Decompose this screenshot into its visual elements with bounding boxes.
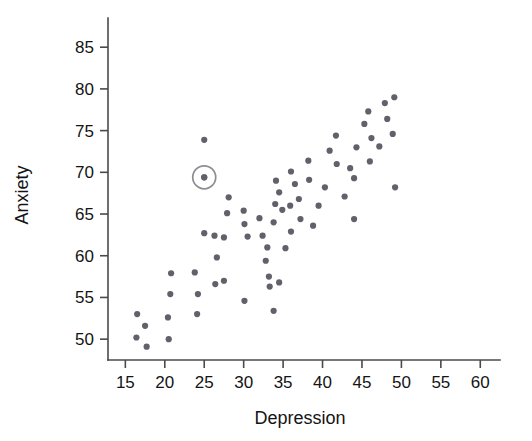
data-point — [282, 245, 288, 251]
data-point — [368, 135, 374, 141]
data-point — [266, 273, 272, 279]
x-tick-label: 25 — [195, 373, 214, 392]
data-point — [382, 100, 388, 106]
data-point — [327, 148, 333, 154]
data-point — [271, 219, 277, 225]
y-tick-label: 80 — [75, 80, 94, 99]
data-point — [241, 298, 247, 304]
data-point — [334, 161, 340, 167]
data-point — [333, 133, 339, 139]
data-point — [144, 344, 150, 350]
data-point — [212, 281, 218, 287]
data-point — [297, 216, 303, 222]
x-tick-label: 30 — [234, 373, 253, 392]
data-point — [221, 278, 227, 284]
x-tick-label: 45 — [353, 373, 372, 392]
highlight-layer — [193, 166, 216, 189]
data-point — [168, 270, 174, 276]
data-point — [241, 208, 247, 214]
data-point — [259, 233, 265, 239]
data-point — [391, 94, 397, 100]
y-axis-ticks: 5055606570758085 — [75, 38, 108, 349]
data-point — [306, 177, 312, 183]
data-point — [267, 283, 273, 289]
data-point — [224, 210, 230, 216]
data-point — [142, 323, 148, 329]
data-point — [315, 203, 321, 209]
data-point — [322, 184, 328, 190]
data-point — [288, 228, 294, 234]
data-point — [361, 121, 367, 127]
data-point — [305, 158, 311, 164]
data-point — [390, 131, 396, 137]
x-tick-label: 50 — [392, 373, 411, 392]
y-tick-label: 60 — [75, 247, 94, 266]
data-point — [271, 308, 277, 314]
highlighted-data-point — [201, 174, 207, 180]
data-point — [272, 201, 278, 207]
data-point — [310, 223, 316, 229]
y-tick-label: 55 — [75, 288, 94, 307]
data-point — [226, 194, 232, 200]
data-point — [166, 336, 172, 342]
data-point — [241, 221, 247, 227]
data-point — [165, 314, 171, 320]
data-point — [194, 311, 200, 317]
data-point — [214, 254, 220, 260]
y-tick-label: 65 — [75, 205, 94, 224]
data-point — [288, 168, 294, 174]
y-tick-label: 50 — [75, 330, 94, 349]
data-point — [276, 189, 282, 195]
data-point — [263, 258, 269, 264]
data-point — [264, 244, 270, 250]
data-point — [347, 165, 353, 171]
data-point — [276, 279, 282, 285]
x-tick-label: 40 — [313, 373, 332, 392]
scatterplot-canvas: 5055606570758085 15202530354045505560 De… — [0, 0, 532, 441]
y-axis-title: Anxiety — [12, 165, 32, 224]
data-point — [201, 137, 207, 143]
data-point — [245, 233, 251, 239]
data-point — [392, 184, 398, 190]
x-tick-label: 15 — [116, 373, 135, 392]
data-point — [133, 334, 139, 340]
x-tick-label: 60 — [471, 373, 490, 392]
x-tick-label: 55 — [431, 373, 450, 392]
x-axis-ticks: 15202530354045505560 — [116, 360, 490, 392]
data-point — [273, 178, 279, 184]
data-point — [296, 196, 302, 202]
data-point — [384, 116, 390, 122]
scatterplot-figure: 5055606570758085 15202530354045505560 De… — [0, 0, 532, 441]
x-tick-label: 20 — [155, 373, 174, 392]
y-tick-label: 85 — [75, 38, 94, 57]
data-point — [292, 181, 298, 187]
data-point — [376, 143, 382, 149]
data-point — [353, 144, 359, 150]
data-point — [167, 291, 173, 297]
data-point — [342, 193, 348, 199]
data-point — [211, 233, 217, 239]
data-point — [201, 230, 207, 236]
data-point — [221, 234, 227, 240]
x-axis-title: Depression — [254, 408, 345, 428]
y-tick-label: 75 — [75, 122, 94, 141]
data-points-layer — [133, 94, 398, 350]
data-point — [287, 203, 293, 209]
data-point — [195, 291, 201, 297]
data-point — [365, 108, 371, 114]
data-point — [134, 311, 140, 317]
data-point — [192, 269, 198, 275]
data-point — [351, 175, 357, 181]
data-point — [367, 158, 373, 164]
data-point — [279, 207, 285, 213]
data-point — [256, 215, 262, 221]
data-point — [351, 216, 357, 222]
x-tick-label: 35 — [274, 373, 293, 392]
y-tick-label: 70 — [75, 163, 94, 182]
